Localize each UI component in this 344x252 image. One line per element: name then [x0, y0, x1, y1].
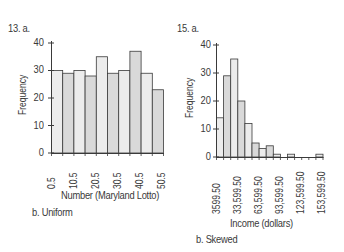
- histogram-bar: [259, 149, 266, 157]
- histogram-bar: [224, 76, 231, 157]
- histogram-bar: [316, 154, 323, 157]
- histogram-bar: [273, 154, 280, 157]
- histogram-bar: [217, 118, 224, 157]
- histogram-bar: [238, 101, 245, 157]
- left-histogram: [48, 41, 164, 156]
- histogram-bar: [252, 143, 259, 157]
- histograms: [0, 0, 344, 252]
- histogram-bar: [231, 59, 238, 157]
- histogram-bar: [52, 71, 63, 154]
- histogram-bar: [119, 71, 130, 154]
- histogram-bar: [288, 154, 295, 157]
- histogram-bar: [245, 123, 252, 157]
- histogram-bar: [96, 57, 107, 153]
- histogram-bar: [152, 90, 163, 153]
- histogram-bar: [266, 146, 273, 157]
- histogram-bar: [130, 51, 141, 153]
- histogram-bar: [85, 76, 96, 153]
- right-histogram: [213, 43, 324, 160]
- histogram-bar: [74, 71, 85, 154]
- histogram-bar: [63, 73, 74, 153]
- histogram-bar: [141, 73, 152, 153]
- histogram-bar: [108, 73, 119, 153]
